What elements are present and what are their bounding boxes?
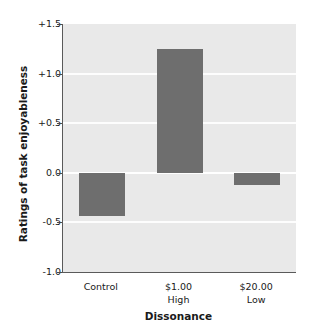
y-axis-tick-labels: +1.5+1.0+0.50.0-0.5-1.0 (14, 0, 61, 327)
y-tick-mark (57, 173, 62, 174)
x-axis-title: Dissonance (62, 310, 295, 322)
y-tick-label: 0.0 (15, 168, 61, 178)
y-tick-mark (57, 222, 62, 223)
x-category-label: $20.00Low (206, 280, 306, 306)
y-tick-mark (57, 24, 62, 25)
y-tick-mark (57, 74, 62, 75)
gridline (63, 221, 296, 223)
y-tick-mark (57, 272, 62, 273)
y-tick-label: -0.5 (15, 217, 61, 227)
y-tick-label: -1.0 (15, 267, 61, 277)
bar (234, 173, 280, 185)
bar-chart-figure: Ratings of task enjoyableness +1.5+1.0+0… (0, 0, 309, 327)
x-category-line-1: $20.00 (206, 280, 306, 293)
bar (79, 173, 125, 217)
y-tick-label: +1.5 (15, 19, 61, 29)
y-tick-label: +1.0 (15, 69, 61, 79)
plot-area (62, 24, 296, 273)
y-tick-mark (57, 123, 62, 124)
bar (157, 49, 203, 173)
plot-inner (63, 24, 296, 272)
y-tick-label: +0.5 (15, 118, 61, 128)
x-category-line-2: Low (206, 293, 306, 306)
